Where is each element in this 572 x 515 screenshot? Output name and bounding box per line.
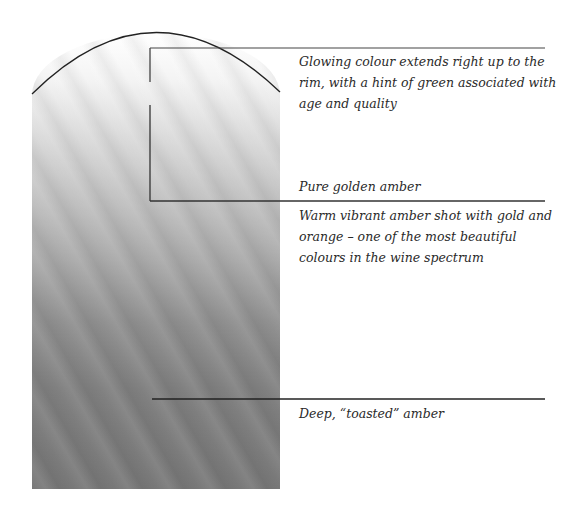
label-rim: Glowing colour extends right up to the r…: [299, 51, 559, 114]
label-deep-toasted-amber: Deep, “toasted” amber: [299, 403, 559, 424]
label-pure-golden-amber: Pure golden amber: [299, 176, 559, 197]
label-warm-vibrant-amber: Warm vibrant amber shot with gold and or…: [299, 205, 559, 268]
rim-arc: [32, 32, 280, 94]
